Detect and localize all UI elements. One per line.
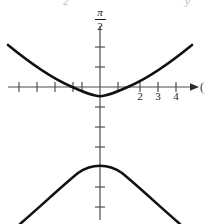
- y-axis-label-numerator: π: [88, 7, 112, 18]
- plot-canvas: [0, 0, 208, 224]
- y-axis-label-denominator: 2: [88, 21, 112, 32]
- clipped-text-left: 2: [63, 0, 69, 7]
- x-axis-arrow-icon: [190, 83, 199, 91]
- graph-figure: π 2 2 3 4 ( 2 y: [0, 0, 208, 224]
- x-tick-label-3: 3: [152, 91, 164, 102]
- y-axis-top-label: π 2: [88, 7, 112, 32]
- clipped-text-right: y: [185, 0, 190, 7]
- x-axis-variable-label: (: [200, 81, 204, 93]
- x-tick-label-2: 2: [134, 91, 146, 102]
- x-tick-label-4: 4: [170, 91, 182, 102]
